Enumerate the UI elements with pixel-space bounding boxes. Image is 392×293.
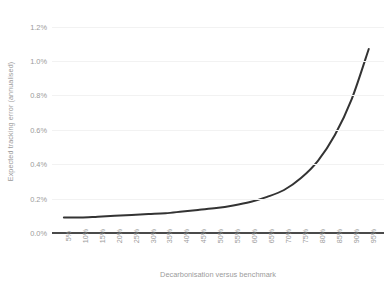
series-line-tracking-error bbox=[52, 18, 384, 233]
x-axis-tick-label: 40% bbox=[182, 229, 191, 243]
series-path bbox=[64, 49, 369, 218]
y-axis-tick-label: 1.2% bbox=[30, 22, 47, 31]
gridline bbox=[52, 130, 384, 131]
y-axis-tick-label: 0.4% bbox=[30, 160, 47, 169]
x-axis-tick-label: 50% bbox=[216, 229, 225, 243]
x-axis-tick-label: 25% bbox=[132, 229, 141, 243]
x-axis-tick-label: 65% bbox=[267, 229, 276, 243]
x-axis-tick-labels: 5%10%15%20%25%30%35%40%45%50%55%60%65%70… bbox=[52, 234, 384, 264]
y-axis-tick-labels: 0.0%0.2%0.4%0.6%0.8%1.0%1.2% bbox=[20, 0, 50, 243]
x-axis-tick-label: 80% bbox=[318, 229, 327, 243]
x-axis-tick-label: 30% bbox=[149, 229, 158, 243]
y-axis-title-text: Expected tracking error (annualised) bbox=[7, 62, 16, 181]
x-axis-tick-label: 10% bbox=[81, 229, 90, 243]
x-axis-tick-label: 90% bbox=[352, 229, 361, 243]
gridline bbox=[52, 95, 384, 96]
y-axis-tick-label: 1.0% bbox=[30, 57, 47, 66]
y-axis-tick-label: 0.6% bbox=[30, 125, 47, 134]
gridline bbox=[52, 199, 384, 200]
x-axis-tick-label: 55% bbox=[233, 229, 242, 243]
x-axis-tick-label: 75% bbox=[301, 229, 310, 243]
x-axis-title: Decarbonisation versus benchmark bbox=[52, 270, 384, 279]
y-axis-tick-label: 0.8% bbox=[30, 91, 47, 100]
y-axis-tick-label: 0.2% bbox=[30, 194, 47, 203]
gridline bbox=[52, 61, 384, 62]
gridline bbox=[52, 164, 384, 165]
chart-container: Expected tracking error (annualised) 0.0… bbox=[0, 0, 392, 293]
plot-area bbox=[52, 18, 384, 233]
x-axis-tick-label: 45% bbox=[199, 229, 208, 243]
x-axis-tick-label: 20% bbox=[115, 229, 124, 243]
x-axis-tick-label: 5% bbox=[64, 231, 73, 241]
y-axis-tick-label: 0.0% bbox=[30, 229, 47, 238]
x-axis-tick-label: 15% bbox=[98, 229, 107, 243]
x-axis-tick-label: 95% bbox=[369, 229, 378, 243]
y-axis-title: Expected tracking error (annualised) bbox=[0, 0, 22, 243]
x-axis-tick-label: 60% bbox=[250, 229, 259, 243]
x-axis-tick-label: 70% bbox=[284, 229, 293, 243]
x-axis-tick-label: 85% bbox=[335, 229, 344, 243]
x-axis-tick-label: 35% bbox=[165, 229, 174, 243]
gridline bbox=[52, 27, 384, 28]
